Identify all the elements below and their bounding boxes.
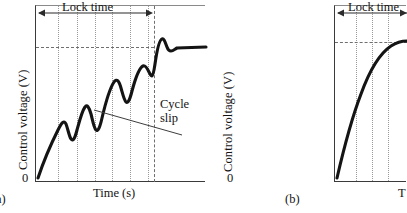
panel-b-y-axis-label: Control voltage (V)	[221, 72, 236, 173]
panel-b-control-voltage-curve	[335, 6, 407, 183]
panel-a-tag: a)	[0, 192, 6, 207]
panel-a-cycle-slip-annotation: Cycle slip	[160, 97, 189, 125]
panel-a-plot-area	[35, 5, 205, 182]
panel-a-y-origin-tick: 0	[22, 171, 28, 186]
panel-b-tag: (b)	[285, 192, 300, 207]
panel-b-plot-area	[334, 5, 406, 182]
panel-a-lock-time-label: Lock time	[62, 0, 113, 15]
panel-a: Control voltage (V) 0 Lock time	[0, 0, 205, 213]
panel-a-cycle-slip-line1: Cycle	[160, 97, 189, 111]
panel-b: Control voltage (V) 0 Lock time T (b)	[205, 0, 401, 213]
panel-a-y-axis-label: Control voltage (V)	[16, 70, 31, 171]
panel-a-cycle-slip-line2: slip	[160, 111, 189, 125]
panel-a-x-axis-label: Time (s)	[93, 186, 135, 201]
panel-b-x-axis-label: T	[398, 186, 406, 201]
panel-b-y-origin-tick: 0	[227, 171, 233, 186]
panel-b-lock-time-label: Lock time	[348, 0, 399, 15]
panel-a-cycle-slip-leader-line	[36, 6, 206, 183]
